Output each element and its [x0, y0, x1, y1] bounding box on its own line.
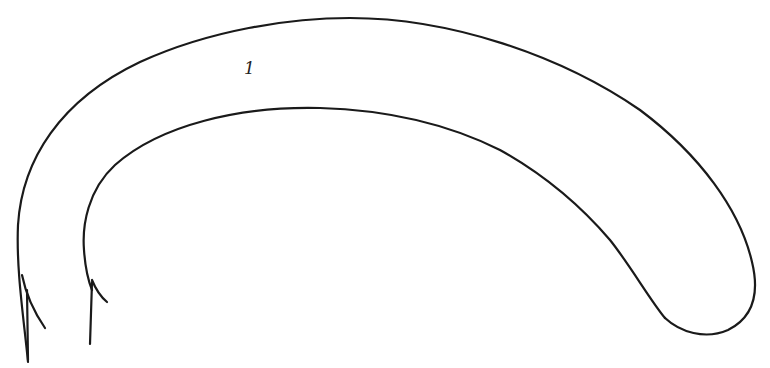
outer-curve: [18, 18, 755, 362]
diagram-canvas: [0, 0, 770, 368]
outer-end-vertical: [27, 290, 28, 360]
region-label-1: 1: [244, 60, 255, 77]
inner-end-tail: [92, 280, 107, 302]
outer-end-tail: [22, 275, 45, 328]
inner-end-vertical: [90, 282, 92, 344]
inner-curve: [84, 108, 665, 318]
